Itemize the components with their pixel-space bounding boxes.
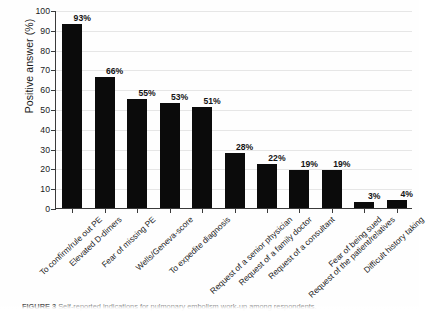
gridline [56,11,412,12]
y-axis-tick-label: 0 [20,204,50,214]
bar [192,107,212,208]
y-axis-tick [51,70,56,71]
bar [322,170,342,208]
bar [95,77,115,208]
bar [225,153,245,208]
y-axis-tick-label: 10 [20,184,50,194]
bar-value-label: 19% [322,159,362,169]
y-axis-tick [51,90,56,91]
bar [289,170,309,208]
x-axis-tick [170,208,171,213]
bar-value-label: 51% [192,96,232,106]
x-axis-tick [105,208,106,213]
y-axis-tick [51,130,56,131]
y-axis-tick-label: 40 [20,125,50,135]
x-axis-tick [267,208,268,213]
x-axis-tick [299,208,300,213]
bar [62,24,82,208]
y-axis-tick [51,51,56,52]
gridline [56,51,412,52]
plot-area: 010203040506070809010093%66%55%53%51%28%… [55,11,412,209]
y-axis-tick-label: 30 [20,145,50,155]
y-axis-tick-label: 50 [20,105,50,115]
bar [160,103,180,208]
x-axis-tick [137,208,138,213]
bar [257,164,277,208]
y-axis-tick [51,150,56,151]
y-axis-tick [51,169,56,170]
y-axis-tick-label: 70 [20,65,50,75]
x-axis-tick [397,208,398,213]
bar-value-label: 28% [225,142,265,152]
y-axis-tick [51,31,56,32]
y-axis-tick [51,11,56,12]
y-axis-tick-label: 80 [20,46,50,56]
caption-clip-overlay [0,304,419,312]
y-axis-tick [51,110,56,111]
x-axis-tick [364,208,365,213]
bar [387,200,407,208]
y-axis-tick-label: 60 [20,85,50,95]
x-axis-tick [202,208,203,213]
y-axis-tick [51,189,56,190]
bar-value-label: 4% [387,189,427,199]
bar-value-label: 93% [62,13,102,23]
x-axis-tick [235,208,236,213]
gridline [56,31,412,32]
x-axis-tick [72,208,73,213]
y-axis-tick [51,209,56,210]
y-axis-tick-label: 100 [20,6,50,16]
y-axis-tick-label: 20 [20,164,50,174]
bar [127,99,147,208]
x-axis-tick [332,208,333,213]
y-axis-tick-label: 90 [20,26,50,36]
bar-value-label: 66% [95,66,135,76]
